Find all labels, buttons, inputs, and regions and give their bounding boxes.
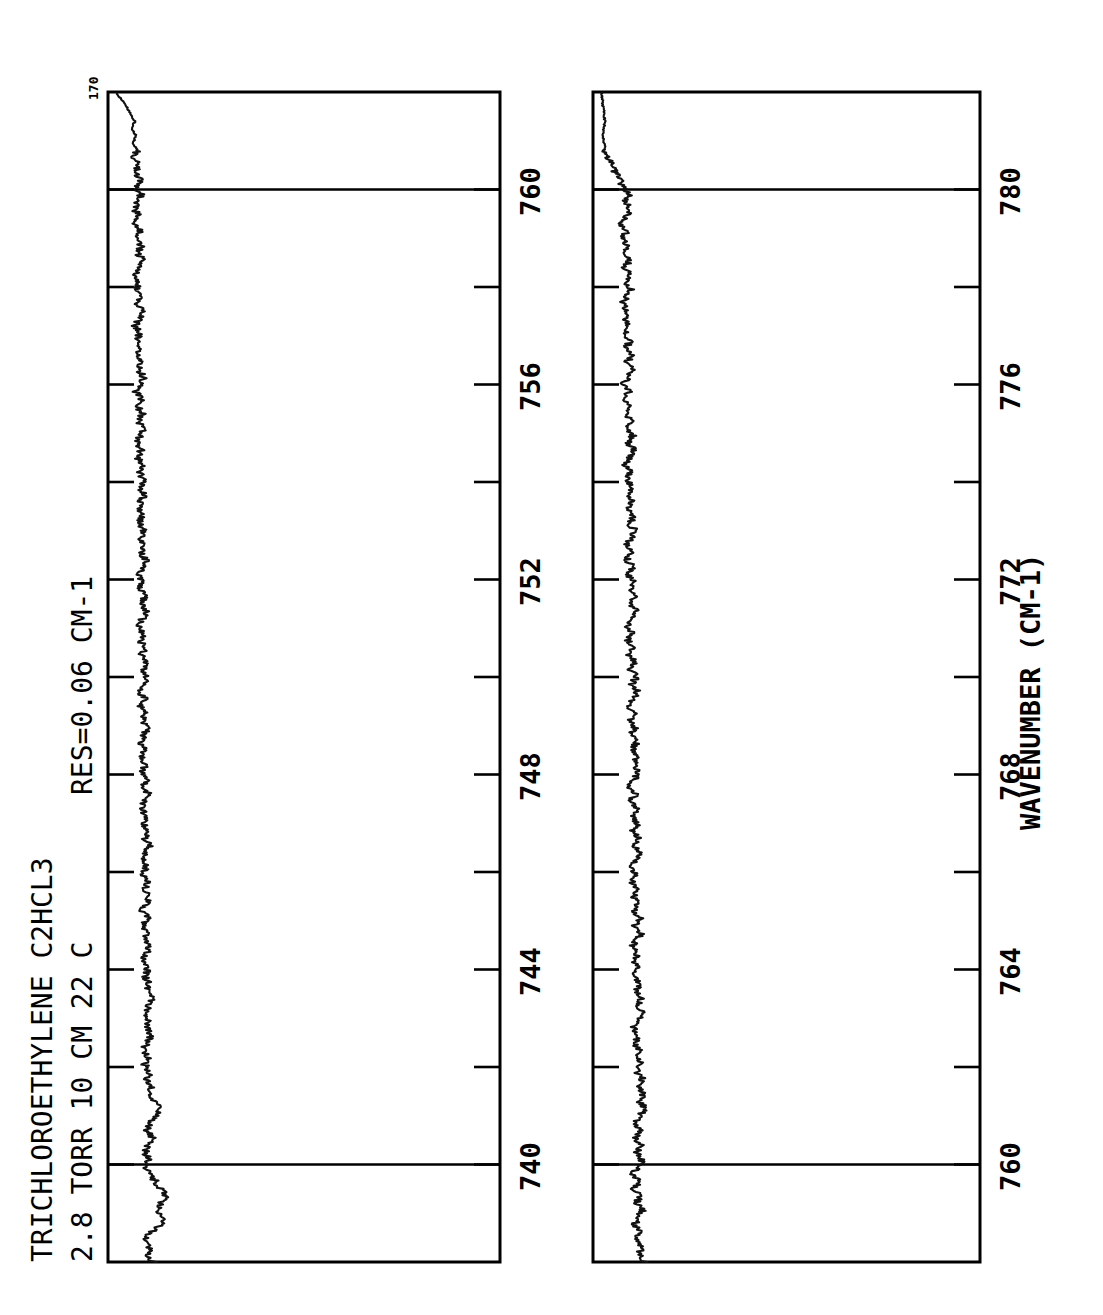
spectrum-plot-canvas: TRICHLOROETHYLENE C2HCL3 2.8 TORR 10 CM … <box>0 0 1103 1315</box>
title-line-1: TRICHLOROETHYLENE C2HCL3 <box>26 857 59 1262</box>
x-axis-label: WAVENUMBER (CM-1) <box>1015 554 1046 830</box>
x-tick-label: 776 <box>995 362 1026 411</box>
x-tick-label: 748 <box>515 752 546 801</box>
spectrum-figure: TRICHLOROETHYLENE C2HCL3 2.8 TORR 10 CM … <box>0 0 1103 1315</box>
resolution-label: RES=0.06 CM-1 <box>66 576 99 795</box>
panel-top: 740744748752756760 <box>108 92 546 1262</box>
x-tick-label: 744 <box>515 947 546 996</box>
x-tick-label: 780 <box>995 167 1026 216</box>
axis-label-block: WAVENUMBER (CM-1) <box>1015 554 1046 830</box>
x-tick-label: 756 <box>515 362 546 411</box>
x-tick-label: 760 <box>995 1142 1026 1191</box>
panel-frame <box>593 92 980 1262</box>
x-tick-label: 760 <box>515 167 546 216</box>
title-block: TRICHLOROETHYLENE C2HCL3 2.8 TORR 10 CM … <box>26 76 101 1262</box>
panel-frame <box>108 92 500 1262</box>
x-tick-label: 764 <box>995 947 1026 996</box>
corner-index-label: 170 <box>86 76 101 100</box>
title-line-2: 2.8 TORR 10 CM 22 C <box>66 942 99 1262</box>
x-tick-label: 752 <box>515 557 546 606</box>
panel-bottom: 760764768772776780 <box>593 92 1026 1262</box>
x-tick-label: 740 <box>515 1142 546 1191</box>
